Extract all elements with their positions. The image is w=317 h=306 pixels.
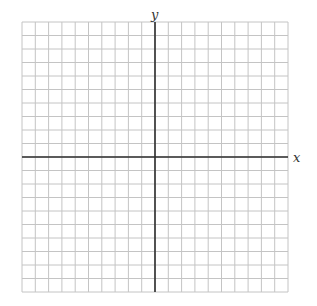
y-axis-label: y	[151, 8, 158, 21]
x-axis-label: x	[293, 151, 300, 164]
coordinate-plane	[0, 0, 317, 306]
